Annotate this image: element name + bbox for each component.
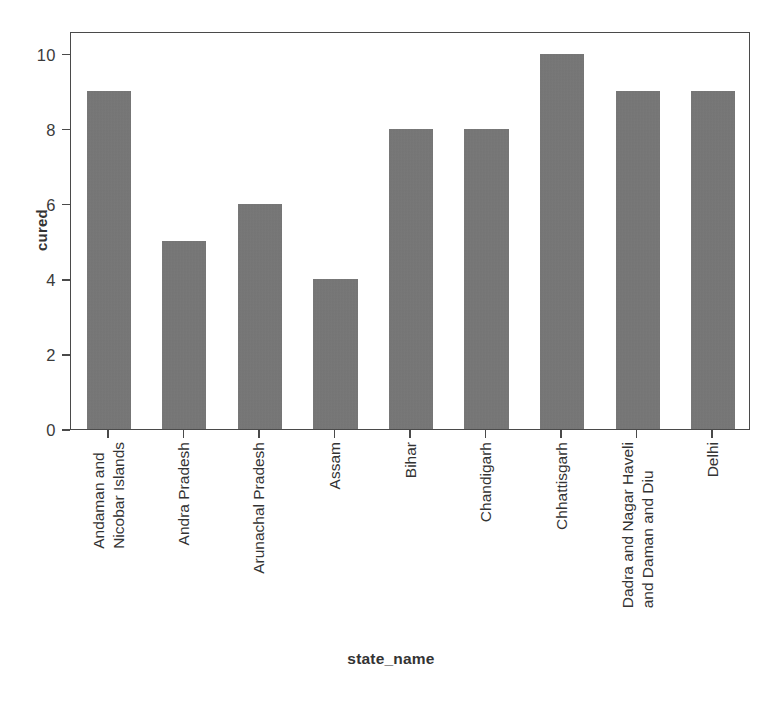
y-axis-tick-mark xyxy=(62,129,70,131)
y-axis-tick-mark xyxy=(62,279,70,281)
y-axis-tick-mark xyxy=(62,354,70,356)
bar xyxy=(87,91,131,429)
x-axis-tick-mark xyxy=(711,430,713,438)
x-axis-tick-mark xyxy=(107,430,109,438)
x-axis-tick-label: Chandigarh xyxy=(476,442,496,522)
x-axis-tick-label: Dadra and Nagar Haveliand Daman and Diu xyxy=(618,442,658,608)
bar xyxy=(691,91,735,429)
x-axis-tick-label-line: Bihar xyxy=(402,442,419,478)
x-axis-tick-mark xyxy=(636,430,638,438)
x-axis-tick-label: Andra Pradesh xyxy=(174,442,194,545)
x-axis-tick-label-line: and Daman and Diu xyxy=(637,442,657,608)
bar xyxy=(464,129,508,429)
x-axis-tick-label-line: Chhattisgarh xyxy=(553,442,570,530)
y-axis-tick-mark xyxy=(62,429,70,431)
bar xyxy=(389,129,433,429)
bar xyxy=(540,54,584,429)
x-axis-tick-label-line: Nicobar Islands xyxy=(109,442,129,549)
x-axis-tick-mark xyxy=(409,430,411,438)
x-axis-title: state_name xyxy=(0,650,782,668)
x-axis-tick-mark xyxy=(183,430,185,438)
bar xyxy=(238,204,282,429)
bar-chart-figure: cured 0246810 Andaman andNicobar Islands… xyxy=(0,0,782,713)
x-axis-tick-label-line: Arunachal Pradesh xyxy=(250,442,267,574)
x-axis-tick-mark xyxy=(560,430,562,438)
y-axis-tick-mark xyxy=(62,204,70,206)
x-axis-tick-label: Chhattisgarh xyxy=(552,442,572,530)
x-axis-tick-label-line: Delhi xyxy=(704,442,721,477)
x-axis-tick-mark xyxy=(258,430,260,438)
x-axis-tick-label: Assam xyxy=(325,442,345,489)
plot-area xyxy=(70,32,750,430)
bar xyxy=(313,279,357,429)
x-axis-tick-mark xyxy=(334,430,336,438)
x-axis-tick-label: Bihar xyxy=(401,442,421,478)
y-axis-tick-marks xyxy=(0,0,70,713)
bar xyxy=(616,91,660,429)
y-axis-tick-mark xyxy=(62,54,70,56)
x-axis-tick-label-line: Assam xyxy=(326,442,343,489)
x-axis-tick-mark xyxy=(485,430,487,438)
x-axis-tick-label-line: Andra Pradesh xyxy=(175,442,192,545)
x-axis-tick-label-line: Dadra and Nagar Haveli xyxy=(619,442,636,608)
x-axis-tick-label-line: Chandigarh xyxy=(477,442,494,522)
x-axis-tick-label: Arunachal Pradesh xyxy=(249,442,269,574)
x-axis-tick-label: Delhi xyxy=(703,442,723,477)
x-axis-tick-label: Andaman andNicobar Islands xyxy=(89,442,129,549)
bar xyxy=(162,241,206,429)
x-axis-tick-label-line: Andaman and xyxy=(90,452,107,549)
